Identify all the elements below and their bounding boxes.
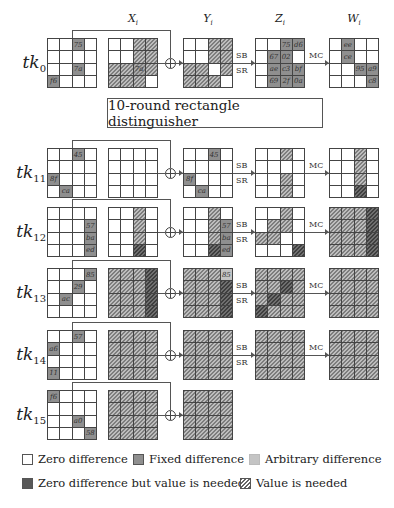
state-cell <box>196 76 208 88</box>
sb-label: SB <box>236 161 247 170</box>
state-cell <box>73 208 85 220</box>
tweakey-grid: 757af6 <box>47 38 97 88</box>
state-cell <box>196 149 208 161</box>
state-cell <box>256 208 268 220</box>
state-cell <box>109 294 121 306</box>
state-cell <box>221 356 233 368</box>
state-cell <box>121 343 133 355</box>
state-cell: 11 <box>48 368 60 380</box>
state-cell <box>367 331 379 343</box>
state-cell <box>121 281 133 293</box>
state-cell <box>109 174 121 186</box>
state-cell <box>73 269 85 281</box>
state-cell <box>146 331 158 343</box>
state-cell: 57 <box>85 220 97 232</box>
state-cell <box>184 245 196 257</box>
state-cell <box>134 269 146 281</box>
key-connector-line <box>170 260 171 288</box>
arrow-icon <box>325 229 329 235</box>
state-cell <box>134 294 146 306</box>
state-cell <box>146 161 158 173</box>
state-cell <box>134 208 146 220</box>
state-cell <box>196 281 208 293</box>
state-cell <box>146 416 158 428</box>
state-z-grid <box>255 268 305 318</box>
state-cell <box>367 368 379 380</box>
state-cell <box>121 306 133 318</box>
state-cell <box>60 245 72 257</box>
state-cell <box>268 186 280 198</box>
state-cell <box>60 220 72 232</box>
state-cell <box>121 356 133 368</box>
tweakey-grid: 8529ac <box>47 268 97 318</box>
state-cell <box>268 294 280 306</box>
key-connector-line <box>72 199 171 200</box>
state-cell <box>209 51 221 63</box>
state-y-grid: 57baed <box>183 207 233 257</box>
state-cell <box>134 245 146 257</box>
state-cell <box>134 343 146 355</box>
sr-label: SR <box>236 358 248 367</box>
state-cell <box>330 368 342 380</box>
state-cell <box>48 294 60 306</box>
state-cell <box>221 51 233 63</box>
state-cell <box>121 149 133 161</box>
state-cell <box>48 331 60 343</box>
state-cell <box>268 269 280 281</box>
round-key-sub: 11 <box>33 173 46 184</box>
state-cell <box>342 331 354 343</box>
round-key-sub: 14 <box>33 355 46 366</box>
state-cell <box>146 403 158 415</box>
state-cell: 85 <box>221 269 233 281</box>
legend-label: Zero difference <box>38 452 128 466</box>
column-header-sub: i <box>136 19 138 27</box>
state-cell <box>367 269 379 281</box>
state-cell: 45 <box>73 149 85 161</box>
state-cell <box>209 391 221 403</box>
state-cell <box>196 294 208 306</box>
state-cell <box>355 269 367 281</box>
state-cell <box>73 391 85 403</box>
state-cell <box>281 174 293 186</box>
state-cell <box>355 306 367 318</box>
state-cell <box>109 245 121 257</box>
state-cell <box>85 403 97 415</box>
state-cell <box>109 220 121 232</box>
state-cell <box>342 294 354 306</box>
state-cell: 75 <box>281 39 293 51</box>
state-cell <box>121 416 133 428</box>
state-cell <box>342 233 354 245</box>
state-cell: ba <box>221 233 233 245</box>
state-cell <box>134 416 146 428</box>
state-w-grid: eece95a9c8 <box>329 38 379 88</box>
state-cell <box>281 306 293 318</box>
zero-swatch-icon <box>22 454 33 465</box>
key-connector-line <box>170 30 171 58</box>
state-cell <box>256 368 268 380</box>
sr-label: SR <box>236 176 248 185</box>
column-header-sub: i <box>283 19 285 27</box>
state-cell <box>134 356 146 368</box>
arbitrary-swatch-icon <box>249 454 260 465</box>
mc-label: MC <box>309 161 323 170</box>
state-cell <box>293 368 305 380</box>
state-cell <box>109 306 121 318</box>
state-cell <box>196 161 208 173</box>
state-cell <box>85 416 97 428</box>
state-cell <box>184 76 196 88</box>
state-cell <box>355 208 367 220</box>
state-cell <box>281 220 293 232</box>
zero-value-needed-swatch-icon <box>22 478 33 489</box>
state-y-grid <box>183 390 233 440</box>
arrow-icon <box>179 170 183 176</box>
state-cell <box>293 51 305 63</box>
state-cell <box>330 39 342 51</box>
arrow-icon <box>179 290 183 296</box>
state-cell: ed <box>85 245 97 257</box>
state-cell <box>48 416 60 428</box>
state-x-grid <box>108 268 158 318</box>
column-header-sub: i <box>359 19 361 27</box>
state-cell <box>196 64 208 76</box>
state-cell <box>73 186 85 198</box>
tweakey-grid: 458fca <box>47 148 97 198</box>
